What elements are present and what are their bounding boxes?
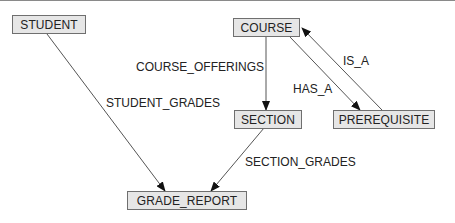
node-student: STUDENT	[12, 15, 86, 34]
edge-label-section-grades: SECTION_GRADES	[245, 155, 356, 169]
edge-label-course-offerings: COURSE_OFFERINGS	[136, 60, 264, 74]
node-label: SECTION	[241, 113, 295, 127]
node-label: PREREQUISITE	[339, 113, 430, 127]
edge-label-has-a: HAS_A	[293, 82, 332, 96]
node-label: GRADE_REPORT	[137, 194, 237, 208]
edge-is-a	[302, 28, 382, 110]
edge-student-grades	[47, 34, 165, 191]
node-label: STUDENT	[20, 18, 77, 32]
node-section: SECTION	[234, 110, 302, 129]
node-grade-report: GRADE_REPORT	[127, 191, 247, 210]
edge-label-student-grades: STUDENT_GRADES	[106, 96, 220, 110]
node-prerequisite: PREREQUISITE	[333, 110, 435, 129]
edge-label-is-a: IS_A	[343, 54, 369, 68]
node-course: COURSE	[233, 18, 300, 37]
edge-has-a	[290, 37, 360, 110]
node-label: COURSE	[241, 21, 293, 35]
